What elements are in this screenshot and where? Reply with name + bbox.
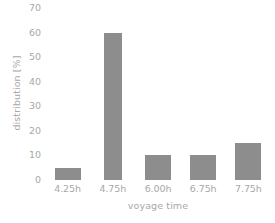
bar[interactable]	[190, 155, 216, 180]
bar-slot	[45, 8, 90, 180]
y-axis-tick-label: 30	[18, 101, 41, 111]
y-axis-tick-label: 20	[18, 126, 41, 136]
bar-slot	[181, 8, 226, 180]
x-axis-tick-label: 4.25h	[45, 183, 90, 194]
y-axis-tick-label: 0	[18, 175, 41, 185]
bar-slot	[226, 8, 271, 180]
y-axis-tick-label: 40	[18, 77, 41, 87]
x-axis-tick-label: 7.75h	[226, 183, 271, 194]
x-axis-tick-label: 6.00h	[135, 183, 180, 194]
bar[interactable]	[235, 143, 261, 180]
bar-chart: distribution [%] 706050403020100 4.25h4.…	[0, 0, 275, 223]
y-axis-tick-labels: 706050403020100	[18, 8, 41, 180]
bar-slot	[135, 8, 180, 180]
y-axis-tick-label: 50	[18, 52, 41, 62]
bar[interactable]	[145, 155, 171, 180]
x-axis-tick-labels: 4.25h4.75h6.00h6.75h7.75h	[45, 183, 271, 194]
bar-series	[45, 8, 271, 180]
x-axis-tick-label: 6.75h	[181, 183, 226, 194]
bar-slot	[90, 8, 135, 180]
plot-area	[45, 8, 271, 180]
y-axis-tick-label: 60	[18, 28, 41, 38]
x-axis-title: voyage time	[45, 200, 271, 211]
y-axis-tick-label: 10	[18, 150, 41, 160]
y-axis-tick-label: 70	[18, 3, 41, 13]
bar[interactable]	[55, 168, 81, 180]
bar[interactable]	[104, 33, 122, 180]
x-axis-tick-label: 4.75h	[90, 183, 135, 194]
